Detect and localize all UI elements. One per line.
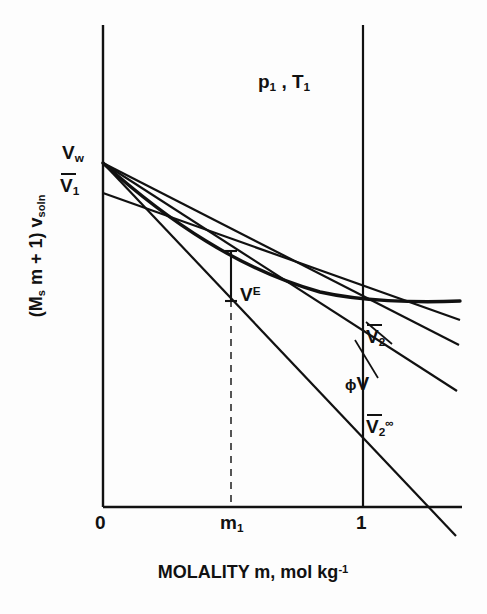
label-vw-subscript: w <box>75 151 84 164</box>
plot-canvas <box>0 0 487 614</box>
label-v2inf-overbar-group: V2 <box>366 417 385 437</box>
label-v2-bar: V2 <box>366 327 385 347</box>
label-v1-bar: V1 <box>60 176 79 196</box>
label-v1-subscript: 1 <box>73 184 80 197</box>
y-axis-title-sub-soln: soln <box>35 194 47 217</box>
label-v2inf-superscript: ∞ <box>385 416 393 429</box>
label-v2-subscript: 2 <box>379 335 386 348</box>
x-tick-label-zero: 0 <box>95 513 106 532</box>
y-axis-title-open: (M <box>26 296 46 317</box>
label-v1-base: V <box>60 175 73 196</box>
label-v2-base: V <box>366 326 379 347</box>
figure-container: (Ms m + 1) vsoln MOLALITY m, mol kg-1 p1… <box>0 0 487 614</box>
pressure-symbol: p <box>258 71 270 92</box>
x-tick-label-one: 1 <box>356 513 367 532</box>
annotation-comma: , <box>276 71 292 92</box>
series-limiting-partial-molar-volume-line <box>103 163 456 536</box>
series-solution-volume-curve <box>103 163 460 302</box>
series-partial-molar-volume-solute-tangent <box>103 163 459 345</box>
phi-symbol: ϕ <box>345 376 356 393</box>
label-v2inf-subscript: 2 <box>379 425 386 438</box>
series-apparent-molar-volume-line <box>103 163 457 391</box>
y-axis-title-sub-s: s <box>35 290 47 296</box>
label-v2inf-base: V <box>366 416 379 437</box>
label-ve-superscript: E <box>253 284 261 297</box>
series-partial-molar-volume-solvent-line <box>103 193 460 320</box>
label-excess-volume: VE <box>240 285 261 304</box>
x-axis-title: MOLALITY m, mol kg-1 <box>103 563 403 581</box>
label-ve-base: V <box>240 284 253 305</box>
x-tick-label-m1: m1 <box>220 513 243 533</box>
label-apparent-molar-volume: ϕV <box>345 374 369 393</box>
x-axis-title-main: MOLALITY m, mol kg <box>158 562 339 582</box>
temperature-symbol: T <box>292 71 304 92</box>
y-axis-title: (Ms m + 1) vsoln <box>27 141 47 371</box>
conditions-annotation: p1 , T1 <box>258 72 310 92</box>
x-tick-m1-subscript: 1 <box>237 521 244 534</box>
x-tick-m1-base: m <box>220 512 237 533</box>
label-v2-bar-infinity: V2∞ <box>366 417 394 437</box>
label-vw: Vw <box>62 143 84 163</box>
y-axis-title-mid: m + 1) v <box>26 217 46 290</box>
temperature-subscript: 1 <box>304 80 311 93</box>
label-vw-base: V <box>62 142 75 163</box>
label-v2-overbar-group: V2 <box>366 327 385 347</box>
label-v1-overbar-group: V1 <box>60 176 79 196</box>
label-phiv-base: V <box>356 373 369 394</box>
x-axis-title-exponent: -1 <box>338 563 348 575</box>
